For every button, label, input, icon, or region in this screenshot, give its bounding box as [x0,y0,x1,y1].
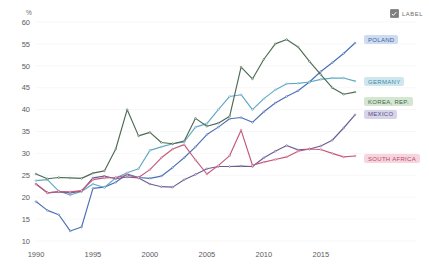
data-point [252,121,254,123]
data-point [195,126,197,128]
data-point [309,81,311,83]
data-point [297,82,299,84]
data-point [263,161,265,163]
data-point [343,93,345,95]
data-point [263,98,265,100]
data-point [263,111,265,113]
data-point [115,177,117,179]
data-point [263,157,265,159]
series-line [36,43,355,231]
data-point [149,132,151,134]
data-point [343,77,345,79]
data-point [229,115,231,117]
x-axis-ticks: 199019952000200520102015 [28,250,330,259]
data-point [297,150,299,152]
data-point [160,146,162,148]
data-point [138,135,140,137]
data-point [58,191,60,193]
data-point [343,53,345,55]
data-point [331,77,333,79]
data-point [69,230,71,232]
y-tick-label: 35 [22,127,30,136]
data-point [217,122,219,124]
data-point [160,175,162,177]
data-point [331,62,333,64]
data-point [172,143,174,145]
data-point [183,179,185,181]
series-line [36,130,355,193]
data-point [354,155,356,157]
data-point [69,177,71,179]
data-point [35,183,37,185]
line-chart: LABEL 1015202530354045505560%19901995200… [0,0,429,269]
y-tick-label: 25 [22,171,30,180]
data-point [195,174,197,176]
data-point [172,186,174,188]
data-point [35,173,37,175]
x-tick-label: 2010 [256,250,273,259]
data-point [81,178,83,180]
series-label-south-africa[interactable]: SOUTH AFRICA [364,154,420,163]
data-point [320,71,322,73]
checkbox-checked-icon[interactable] [390,9,399,18]
x-tick-label: 2005 [199,250,216,259]
x-tick-label: 1990 [28,250,45,259]
data-point [331,139,333,141]
data-point [354,42,356,44]
x-tick-label: 1995 [85,250,102,259]
data-point [149,178,151,180]
data-point [320,74,322,76]
data-point [240,66,242,68]
data-point [69,194,71,196]
data-point [286,96,288,98]
data-point [274,159,276,161]
series-label-mexico[interactable]: MEXICO [364,110,397,119]
data-point [252,109,254,111]
data-point [320,145,322,147]
data-point [217,126,219,128]
data-point [206,134,208,136]
data-point [58,214,60,216]
data-point [274,150,276,152]
data-point [69,191,71,193]
y-tick-label: 60 [22,18,30,27]
y-axis-unit: % [26,9,32,16]
data-point [229,155,231,157]
series-label-korea-rep[interactable]: KOREA, REP. [364,97,413,106]
data-point [286,156,288,158]
series-korea-rep [35,39,356,180]
y-tick-label: 10 [22,237,30,246]
data-point [35,201,37,203]
data-point [115,181,117,183]
label-toggle-control[interactable]: LABEL [390,9,423,18]
y-axis-ticks: 1015202530354045505560 [22,18,30,246]
data-point [240,117,242,119]
data-point [252,164,254,166]
data-point [47,178,49,180]
data-point [160,142,162,144]
data-point [297,90,299,92]
data-point [172,148,174,150]
data-point [286,83,288,85]
data-point [195,159,197,161]
data-point [354,114,356,116]
data-point [309,61,311,63]
y-tick-label: 55 [22,40,30,49]
data-point [58,177,60,179]
data-point [183,157,185,159]
data-point [35,180,37,182]
data-point [229,166,231,168]
series-label-poland[interactable]: POLAND [364,35,398,44]
data-point [104,177,106,179]
data-point [240,129,242,131]
data-point [297,46,299,48]
series-label-germany[interactable]: GERMANY [364,77,404,86]
data-point [274,89,276,91]
data-point [92,177,94,179]
data-point [183,140,185,142]
gridlines [36,22,417,241]
data-point [331,153,333,155]
data-point [240,94,242,96]
data-point [343,127,345,129]
series-south-africa [35,129,356,193]
